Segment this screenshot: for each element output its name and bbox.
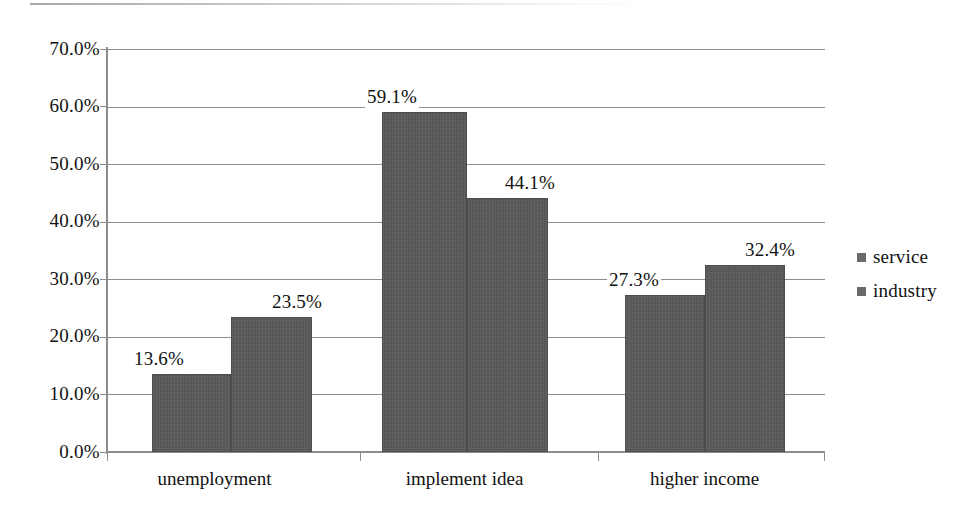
gridline xyxy=(107,107,825,108)
legend-swatch-icon xyxy=(857,253,866,262)
chart-legend: service industry xyxy=(857,240,977,308)
data-label: 13.6% xyxy=(132,348,186,370)
x-axis-category-label: unemployment xyxy=(132,468,297,490)
bar-service-unemployment[interactable] xyxy=(152,374,231,452)
legend-swatch-icon xyxy=(857,287,866,296)
plot-area: 13.6% 23.5% 59.1% 44.1% 27.3% 32.4% xyxy=(107,49,825,452)
legend-item-industry[interactable]: industry xyxy=(857,274,977,308)
legend-label: service xyxy=(873,246,928,268)
x-axis-tick xyxy=(598,452,599,461)
y-axis-label: 20.0% xyxy=(14,325,100,347)
y-axis-label: 60.0% xyxy=(14,95,100,117)
y-axis-label: 10.0% xyxy=(14,383,100,405)
y-axis-label: 40.0% xyxy=(14,210,100,232)
data-label: 59.1% xyxy=(365,86,419,108)
data-label: 32.4% xyxy=(743,239,797,261)
legend-item-service[interactable]: service xyxy=(857,240,977,274)
y-axis-label: 30.0% xyxy=(14,268,100,290)
data-label: 23.5% xyxy=(270,291,324,313)
legend-label: industry xyxy=(873,280,937,302)
y-axis-label: 0.0% xyxy=(14,441,100,463)
data-label: 44.1% xyxy=(503,172,557,194)
x-axis-tick xyxy=(107,452,108,461)
gridline xyxy=(107,49,825,50)
grouped-bar-chart: 70.0% 60.0% 50.0% 40.0% 30.0% 20.0% 10.0… xyxy=(0,0,978,514)
y-axis-label: 70.0% xyxy=(14,38,100,60)
x-axis-tick xyxy=(824,452,825,461)
bar-industry-unemployment[interactable] xyxy=(231,317,312,452)
bar-service-higher-income[interactable] xyxy=(625,295,705,452)
x-axis-category-label: implement idea xyxy=(382,468,547,490)
bar-industry-higher-income[interactable] xyxy=(705,265,785,452)
x-axis-tick xyxy=(360,452,361,461)
bar-service-implement-idea[interactable] xyxy=(382,112,467,452)
bar-industry-implement-idea[interactable] xyxy=(467,198,548,452)
y-axis-labels: 70.0% 60.0% 50.0% 40.0% 30.0% 20.0% 10.0… xyxy=(0,0,100,514)
x-axis-category-label: higher income xyxy=(622,468,787,490)
data-label: 27.3% xyxy=(607,269,661,291)
y-axis-label: 50.0% xyxy=(14,153,100,175)
